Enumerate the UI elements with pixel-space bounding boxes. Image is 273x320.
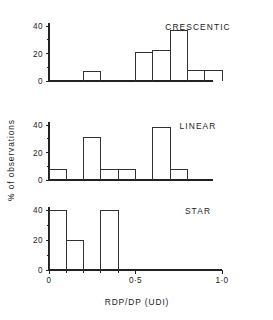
histogram-bars [49,169,66,180]
shared-x-axis: 00·51·0 [47,270,229,285]
histogram-bars [84,71,101,81]
histogram-bars [136,30,223,81]
y-tick-label: 40 [33,206,43,215]
panel-label-crescentic: CRESCENTIC [165,22,230,32]
histogram-bars [84,137,136,180]
y-tick-label: 0 [38,176,43,185]
x-tick-label: 1·0 [215,276,228,285]
y-tick-label: 20 [33,149,43,158]
y-tick-label: 0 [38,266,43,275]
x-axis-title: RDP/DP (UDI) [105,297,170,307]
y-tick-label: 40 [33,121,43,130]
y-tick-label: 20 [33,236,43,245]
x-tick-label: 0 [47,276,52,285]
x-tick-label: 0·5 [129,276,142,285]
panel-label-linear: LINEAR [180,121,217,131]
histogram-bars [101,210,118,270]
panel-label-star: STAR [185,206,211,216]
y-axis-title: % of observations [6,119,16,201]
y-tick-label: 40 [33,22,43,31]
panels-group: 02040CRESCENTIC02040LINEAR02040STAR [33,22,231,275]
panel-linear: 02040LINEAR [33,121,216,185]
figure-canvas: 02040CRESCENTIC02040LINEAR02040STAR 00·5… [0,0,273,320]
y-tick-label: 20 [33,50,43,59]
panel-crescentic: 02040CRESCENTIC [33,22,231,86]
y-tick-label: 0 [38,77,43,86]
panel-star: 02040STAR [33,206,222,275]
histogram-figure: 02040CRESCENTIC02040LINEAR02040STAR 00·5… [0,0,273,320]
